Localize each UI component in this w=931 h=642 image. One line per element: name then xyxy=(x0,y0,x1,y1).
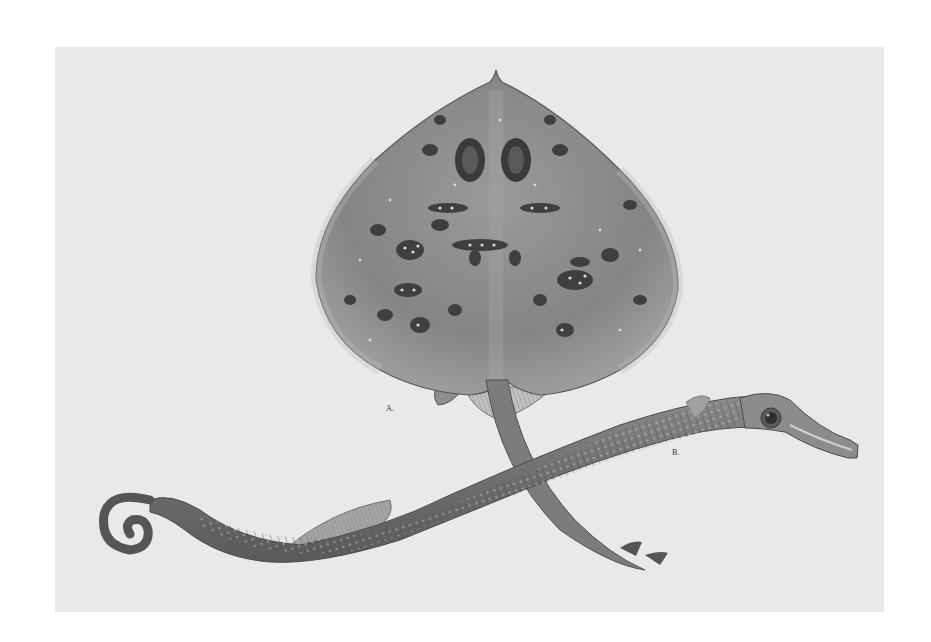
engraving-artwork xyxy=(0,0,931,642)
figure-label-a: A. xyxy=(386,404,394,413)
pipefish-figure xyxy=(104,393,858,562)
ray-tail-dorsal-fin-1 xyxy=(620,542,642,556)
figure-label-b: B. xyxy=(672,448,679,457)
pipefish-coiled-tail xyxy=(104,497,150,550)
pipefish-head xyxy=(740,393,858,458)
ray-tail-dorsal-fin-2 xyxy=(645,552,668,565)
